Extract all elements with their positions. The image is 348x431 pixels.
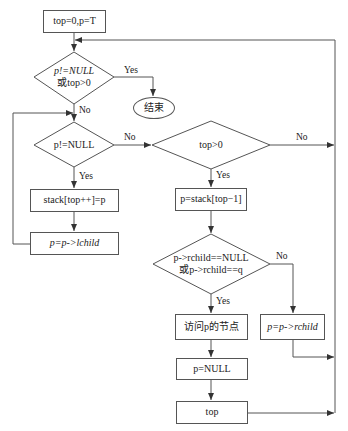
peek-box: p=stack[top−1] [175, 188, 247, 211]
go-left-box: p=p->lchild [30, 232, 119, 255]
peek-text: p=stack[top−1] [180, 193, 241, 206]
rchild-condition-line1: p->rchild==NULL [173, 252, 248, 265]
pop-text: top [206, 406, 219, 419]
set-null-text: p=NULL [193, 363, 230, 376]
edge-label-loop-yes: Yes [124, 65, 138, 75]
pop-box: top [176, 401, 248, 424]
init-box: top=0,p=T [43, 10, 106, 33]
edge-label-top-no: No [296, 132, 308, 142]
edge-label-right-no: No [276, 251, 288, 261]
edge-label-loop-no: No [79, 105, 91, 115]
edge-label-p-no: No [124, 132, 136, 142]
visit-text: 访问p的节点 [184, 321, 239, 334]
go-right-box: p=p->rchild [260, 314, 325, 340]
edge-label-p-yes: Yes [79, 171, 93, 181]
edge-label-top-yes: Yes [216, 170, 230, 180]
init-text: top=0,p=T [53, 15, 96, 28]
push-text: stack[top++]=p [44, 194, 106, 207]
p-not-null-label: p!=NULL [54, 139, 95, 152]
rchild-condition-line2: 或p->rchild==q [179, 264, 243, 277]
edge-label-right-yes: Yes [216, 296, 230, 306]
p-not-null-text: p!=NULL [44, 137, 104, 153]
loop-condition-text: p!=NULL 或top>0 [44, 62, 104, 92]
end-oval: 结束 [133, 97, 175, 119]
go-right-text: p=p->rchild [267, 321, 317, 334]
end-text: 结束 [144, 102, 164, 115]
push-box: stack[top++]=p [30, 189, 119, 212]
visit-box: 访问p的节点 [175, 314, 248, 340]
top-positive-label: top>0 [199, 139, 222, 152]
loop-condition-line2: 或top>0 [57, 77, 90, 90]
rchild-condition-text: p->rchild==NULL 或p->rchild==q [166, 249, 256, 279]
loop-condition-line1: p!=NULL [54, 65, 94, 78]
set-null-box: p=NULL [176, 358, 248, 380]
top-positive-text: top>0 [181, 137, 241, 153]
go-left-text: p=p->lchild [50, 237, 100, 250]
